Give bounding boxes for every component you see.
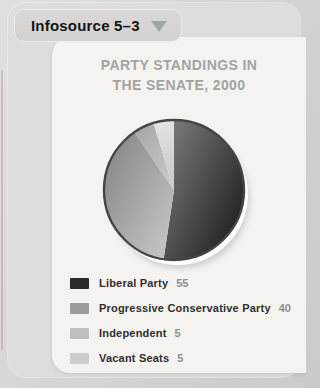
pie-chart bbox=[84, 100, 264, 284]
chart-title: PARTY STANDINGS IN THE SENATE, 2000 bbox=[52, 55, 306, 95]
legend-label: Vacant Seats bbox=[99, 352, 169, 364]
legend-item: Vacant Seats 5 bbox=[70, 352, 291, 364]
legend-item: Progressive Conservative Party 40 bbox=[70, 302, 291, 314]
legend-swatch bbox=[70, 278, 89, 289]
chart-title-line-2: THE SENATE, 2000 bbox=[52, 75, 306, 95]
legend-label: Liberal Party bbox=[99, 277, 168, 289]
legend-value: 55 bbox=[176, 277, 188, 289]
legend-value: 5 bbox=[177, 352, 183, 364]
chart-title-line-1: PARTY STANDINGS IN bbox=[52, 55, 306, 75]
legend-label: Progressive Conservative Party bbox=[99, 302, 271, 314]
legend-swatch bbox=[70, 328, 89, 339]
legend-label: Independent bbox=[99, 327, 167, 339]
pie-chart-area bbox=[84, 100, 264, 288]
page-edge-line bbox=[1, 70, 3, 350]
legend-item: Liberal Party 55 bbox=[70, 277, 291, 289]
triangle-down-icon bbox=[151, 21, 167, 32]
infosource-tab-label: Infosource 5–3 bbox=[31, 17, 140, 34]
chart-legend: Liberal Party 55 Progressive Conservativ… bbox=[70, 277, 291, 377]
legend-swatch bbox=[70, 303, 89, 314]
infosource-tab[interactable]: Infosource 5–3 bbox=[14, 9, 182, 42]
legend-item: Independent 5 bbox=[70, 327, 291, 339]
legend-value: 5 bbox=[175, 327, 181, 339]
legend-swatch bbox=[70, 353, 89, 364]
legend-value: 40 bbox=[279, 302, 291, 314]
